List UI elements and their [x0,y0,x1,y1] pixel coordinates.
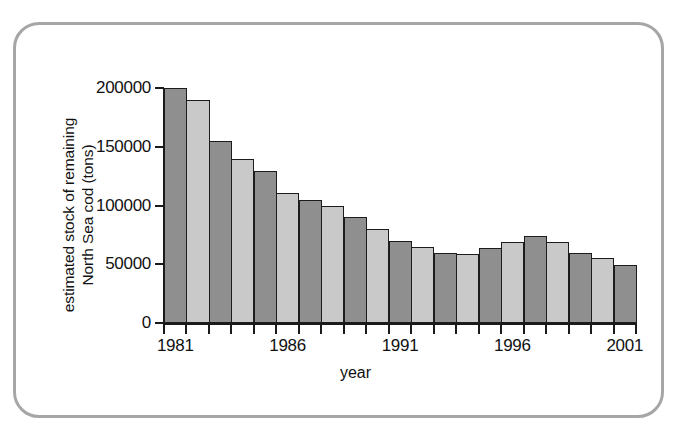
x-tick-8 [343,325,345,334]
x-tick-19 [590,325,592,334]
y-tick-200000 [155,87,164,89]
bar-1998 [546,242,569,323]
y-tick-100000 [155,205,164,207]
bar-1996 [501,242,524,323]
x-axis-title-text: year [340,364,371,382]
x-tick-label-1986: 1986 [269,336,306,356]
y-tick-label-0: 0 [41,313,151,333]
y-tick-50000 [155,263,164,265]
y-tick-0 [155,322,164,324]
bar-1991 [389,241,412,323]
x-tick-label-1991: 1991 [382,336,419,356]
bar-1985 [254,171,277,323]
bar-2000 [591,258,614,323]
x-tick-label-2001: 2001 [606,336,643,356]
bar-1981 [164,88,187,323]
bar-1992 [411,247,434,323]
x-tick-7 [320,325,322,334]
bar-1982 [186,100,209,323]
bar-1999 [569,253,592,324]
x-tick-6 [298,325,300,334]
x-tick-12 [433,325,435,334]
x-tick-4 [253,325,255,334]
x-tick-18 [568,325,570,334]
y-tick-label-50000: 50000 [41,254,151,274]
bar-1989 [344,217,367,323]
bar-1986 [276,193,299,323]
x-tick-13 [455,325,457,334]
x-axis-title: year [0,364,683,382]
bar-1997 [524,236,547,323]
x-tick-17 [545,325,547,334]
bar-1983 [209,141,232,323]
x-tick-0 [163,325,165,334]
x-tick-10 [388,325,390,334]
y-tick-150000 [155,146,164,148]
x-tick-label-1996: 1996 [494,336,531,356]
y-tick-label-100000: 100000 [41,196,151,216]
bar-1993 [434,253,457,324]
y-tick-label-200000: 200000 [41,78,151,98]
x-tick-1 [185,325,187,334]
bar-1988 [321,206,344,324]
plot-area [164,88,636,323]
x-tick-16 [523,325,525,334]
x-tick-2 [208,325,210,334]
x-tick-9 [365,325,367,334]
x-tick-label-1981: 1981 [157,336,194,356]
x-axis-line [163,323,637,325]
bar-1995 [479,248,502,323]
x-tick-5 [275,325,277,334]
bar-1990 [366,229,389,323]
x-tick-21 [635,325,637,334]
x-tick-11 [410,325,412,334]
bar-2001 [614,265,637,323]
y-tick-label-150000: 150000 [41,137,151,157]
x-tick-20 [613,325,615,334]
bar-1984 [231,159,254,324]
x-tick-15 [500,325,502,334]
x-tick-3 [230,325,232,334]
bar-chart: estimated stock of remaining North Sea c… [0,0,683,443]
bar-1987 [299,200,322,323]
bar-1994 [456,254,479,323]
x-tick-14 [478,325,480,334]
